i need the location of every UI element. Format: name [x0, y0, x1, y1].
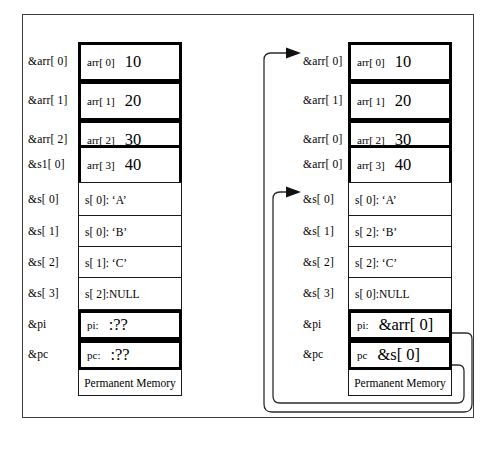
arrowhead-s0 [286, 187, 301, 198]
arrowhead-arr0 [286, 48, 301, 59]
pointer-wires [0, 0, 500, 450]
diagram-canvas: &arr[ 0]arr[ 0]10&arr[ 1]arr[ 1]20&arr[ … [0, 0, 500, 450]
wire-pc-to-s0 [273, 192, 464, 403]
wire-pi-to-arr0 [264, 53, 472, 412]
